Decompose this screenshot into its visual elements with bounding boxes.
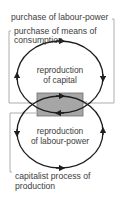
means-of-consumption-label-line2: consumption (14, 36, 63, 46)
labour-loop-label-line2: of labour-power (28, 137, 92, 147)
reproduction-diagram: purchase of labour-power purchase of mea… (0, 0, 120, 198)
labour-power-label: purchase of labour-power (11, 13, 108, 23)
production-label-line2: production (15, 182, 55, 192)
capital-loop-label-line2: of capital (32, 76, 88, 86)
